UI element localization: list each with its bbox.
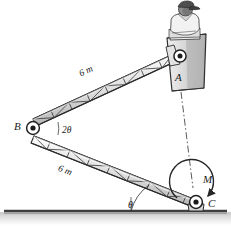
pin-joint-b <box>27 122 40 135</box>
pin-joint-c <box>188 196 204 211</box>
label-joint-b: B <box>14 121 21 132</box>
ground-line <box>0 211 231 225</box>
pin-joint-a <box>174 50 186 62</box>
label-moment: M <box>203 174 212 185</box>
label-joint-a: A <box>175 72 182 83</box>
centerline <box>181 92 193 188</box>
angle-arc-two-theta <box>58 122 59 135</box>
label-angle-two-theta: 2θ <box>62 126 71 136</box>
figure-canvas <box>0 0 231 230</box>
worker-bucket <box>166 34 206 91</box>
statics-figure: B A C M θ 2θ 6 m 6 m <box>0 0 231 230</box>
worker-figure <box>169 1 200 40</box>
upper-boom-truss <box>32 52 181 126</box>
label-angle-theta: θ <box>128 200 133 210</box>
label-joint-c: C <box>208 198 215 209</box>
